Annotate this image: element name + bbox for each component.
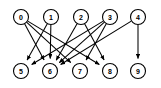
edges-group [25, 21, 138, 64]
graph-canvas: 0123456789 [0, 0, 161, 88]
graph-node-8[interactable]: 8 [103, 64, 118, 79]
node-circle-3 [103, 10, 118, 25]
graph-figure: 0123456789 [0, 0, 161, 88]
graph-node-0[interactable]: 0 [14, 10, 29, 25]
graph-node-1[interactable]: 1 [44, 10, 59, 25]
graph-edge-2-to-6 [56, 24, 77, 60]
node-circle-1 [44, 10, 59, 25]
graph-node-9[interactable]: 9 [131, 64, 146, 79]
graph-node-6[interactable]: 6 [43, 64, 58, 79]
node-circle-9 [131, 64, 146, 79]
graph-node-3[interactable]: 3 [103, 10, 118, 25]
graph-edge-2-to-8 [85, 24, 104, 60]
graph-node-2[interactable]: 2 [74, 10, 89, 25]
graph-edge-1-to-5 [27, 24, 47, 60]
node-circle-7 [73, 64, 88, 79]
node-circle-6 [43, 64, 58, 79]
graph-node-7[interactable]: 7 [73, 64, 88, 79]
node-circle-4 [131, 10, 146, 25]
graph-node-5[interactable]: 5 [14, 64, 29, 79]
node-circle-8 [103, 64, 118, 79]
graph-node-4[interactable]: 4 [131, 10, 146, 25]
graph-edge-4-to-6 [61, 21, 132, 64]
node-circle-0 [14, 10, 29, 25]
node-circle-5 [14, 64, 29, 79]
graph-edge-3-to-5 [32, 21, 104, 64]
graph-edge-0-to-8 [28, 21, 100, 64]
node-circle-2 [74, 10, 89, 25]
graph-edge-0-to-7 [27, 22, 71, 62]
